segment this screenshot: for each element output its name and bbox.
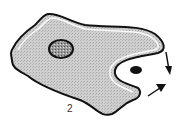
cell-diagram (0, 0, 185, 138)
step-label: 2 (67, 103, 73, 114)
arrow-up-right-icon (148, 84, 166, 96)
particle (130, 66, 142, 74)
nucleus (49, 40, 73, 58)
arrow-down-icon (165, 52, 172, 75)
